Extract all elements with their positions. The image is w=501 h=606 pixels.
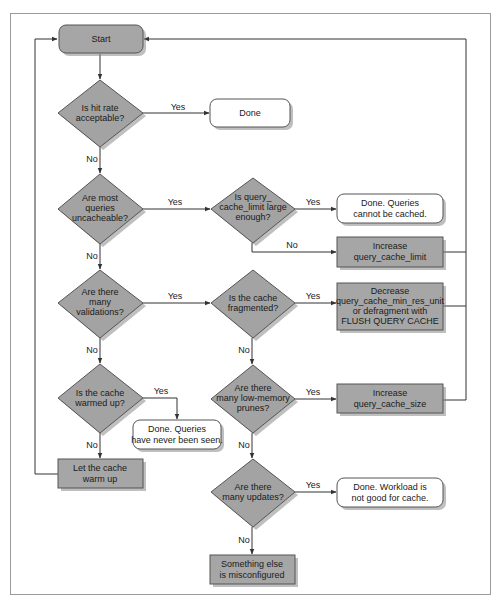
edge-label-yes: Yes bbox=[306, 480, 321, 490]
edge-label-yes: Yes bbox=[154, 386, 169, 396]
edge-label-no: No bbox=[238, 440, 250, 450]
svg-text:many low-memory: many low-memory bbox=[216, 393, 290, 403]
node-start: Start bbox=[59, 25, 146, 56]
svg-text:Are there: Are there bbox=[234, 482, 271, 492]
node-done-workload-terminal: Done. Workload is not good for cache. bbox=[337, 478, 446, 510]
node-done-cannot-cache-terminal: Done. Queries cannot be cached. bbox=[337, 194, 446, 226]
svg-text:Is hit rate: Is hit rate bbox=[81, 103, 118, 113]
svg-text:query_cache_size: query_cache_size bbox=[354, 399, 427, 409]
edge-label-yes: Yes bbox=[171, 102, 186, 112]
edge-let-warm-to-start bbox=[35, 39, 58, 474]
svg-text:query_cache_limit: query_cache_limit bbox=[354, 252, 427, 262]
node-validations-decision: Are there many validations? bbox=[58, 270, 146, 341]
svg-text:Done: Done bbox=[239, 108, 261, 118]
node-decrease-unit-process: Decrease query_cache_min_res_unit or def… bbox=[336, 283, 446, 333]
node-many-updates-decision: Are there many updates? bbox=[211, 459, 298, 530]
svg-text:Let the cache: Let the cache bbox=[73, 463, 127, 473]
svg-text:query_cache_min_res_unit: query_cache_min_res_unit bbox=[336, 296, 445, 306]
node-increase-limit-process: Increase query_cache_limit bbox=[337, 237, 446, 270]
svg-text:Are most: Are most bbox=[82, 193, 119, 203]
svg-text:cannot be cached.: cannot be cached. bbox=[353, 209, 427, 219]
node-limit-large-decision: Is query_ cache_limit large enough? bbox=[211, 178, 298, 246]
node-done-never-seen-terminal: Done. Queries have never been seen. bbox=[131, 420, 224, 452]
node-hit-rate-decision: Is hit rate acceptable? bbox=[58, 80, 146, 150]
svg-text:Increase: Increase bbox=[373, 388, 408, 398]
edge-label-no: No bbox=[86, 154, 98, 164]
edge-label-no: No bbox=[238, 345, 250, 355]
edge-label-yes: Yes bbox=[168, 291, 183, 301]
svg-text:uncacheable?: uncacheable? bbox=[72, 213, 128, 223]
node-increase-size-process: Increase query_cache_size bbox=[337, 384, 446, 416]
node-fragmented-decision: Is the cache fragmented? bbox=[211, 270, 298, 341]
svg-text:warm up: warm up bbox=[82, 474, 118, 484]
node-done-terminal: Done bbox=[210, 99, 293, 130]
svg-text:prunes?: prunes? bbox=[237, 403, 270, 413]
svg-text:Done. Workload is: Done. Workload is bbox=[353, 482, 427, 492]
edge-label-no: No bbox=[86, 251, 98, 261]
svg-text:not good for cache.: not good for cache. bbox=[351, 493, 428, 503]
svg-text:Done. Queries: Done. Queries bbox=[361, 198, 420, 208]
svg-text:or defragment with: or defragment with bbox=[353, 306, 428, 316]
svg-text:Is the cache: Is the cache bbox=[229, 293, 278, 303]
edge-warmed-up-yes bbox=[143, 398, 177, 419]
edge-label-no: No bbox=[238, 535, 250, 545]
node-low-memory-decision: Are there many low-memory prunes? bbox=[211, 365, 298, 436]
svg-text:cache_limit large: cache_limit large bbox=[219, 202, 287, 212]
edge-label-yes: Yes bbox=[306, 291, 321, 301]
svg-text:acceptable?: acceptable? bbox=[76, 113, 125, 123]
node-let-warm-process: Let the cache warm up bbox=[58, 459, 146, 491]
edge-label-no: No bbox=[286, 240, 298, 250]
flowchart: Yes No Yes No Yes No Yes No Yes No Yes N… bbox=[0, 0, 501, 606]
svg-text:Something else: Something else bbox=[221, 559, 283, 569]
svg-text:warmed up?: warmed up? bbox=[74, 398, 125, 408]
svg-text:many: many bbox=[89, 297, 112, 307]
svg-text:have never been seen.: have never been seen. bbox=[131, 435, 223, 445]
svg-text:Increase: Increase bbox=[373, 241, 408, 251]
svg-text:Decrease: Decrease bbox=[371, 286, 410, 296]
edge-label-no: No bbox=[86, 440, 98, 450]
svg-text:many updates?: many updates? bbox=[222, 492, 284, 502]
svg-text:queries: queries bbox=[85, 203, 115, 213]
svg-text:validations?: validations? bbox=[76, 307, 124, 317]
svg-text:enough?: enough? bbox=[235, 212, 270, 222]
node-uncacheable-decision: Are most queries uncacheable? bbox=[58, 174, 146, 247]
svg-text:Done. Queries: Done. Queries bbox=[148, 424, 207, 434]
node-misconfigured-process: Something else is misconfigured bbox=[210, 555, 298, 587]
svg-text:Is query_: Is query_ bbox=[234, 192, 272, 202]
svg-text:FLUSH QUERY CACHE: FLUSH QUERY CACHE bbox=[341, 316, 439, 326]
svg-text:fragmented?: fragmented? bbox=[228, 303, 279, 313]
svg-text:Is the cache: Is the cache bbox=[76, 388, 125, 398]
edge-label-no: No bbox=[86, 345, 98, 355]
svg-text:is misconfigured: is misconfigured bbox=[219, 570, 284, 580]
edge-label-yes: Yes bbox=[306, 387, 321, 397]
edge-label-yes: Yes bbox=[168, 197, 183, 207]
svg-text:Are there: Are there bbox=[234, 383, 271, 393]
svg-text:Are there: Are there bbox=[81, 287, 118, 297]
node-start-label: Start bbox=[91, 34, 111, 44]
edge-label-yes: Yes bbox=[306, 197, 321, 207]
